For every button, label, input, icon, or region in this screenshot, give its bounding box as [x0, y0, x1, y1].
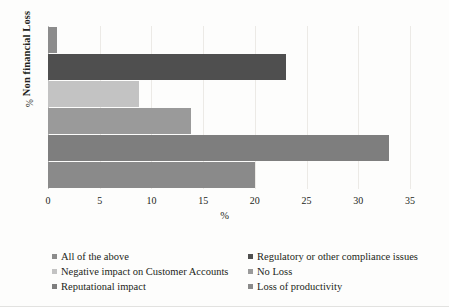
legend-row: All of the aboveRegulatory or other comp… [52, 249, 438, 264]
x-tick-label: 30 [343, 195, 373, 206]
legend-label: All of the above [61, 251, 129, 262]
legend-row: Negative impact on Customer AccountsNo L… [52, 264, 438, 279]
legend-label: Negative impact on Customer Accounts [61, 266, 228, 277]
y-axis-unit-label: % [25, 99, 35, 107]
gridline [410, 26, 411, 189]
x-axis-title: % [0, 210, 449, 221]
bar-no-loss [48, 108, 191, 134]
legend-swatch-icon [248, 254, 253, 259]
x-tick-label: 35 [395, 195, 425, 206]
x-tick-label: 25 [292, 195, 322, 206]
x-tick-label: 15 [188, 195, 218, 206]
bar-all-of-the-above [48, 27, 57, 53]
legend-row: Reputational impactLoss of productivity [52, 279, 438, 294]
legend-swatch-icon [52, 284, 57, 289]
legend-label: Loss of productivity [257, 281, 342, 292]
legend-label: Reputational impact [61, 281, 146, 292]
legend-item[interactable]: All of the above [52, 251, 248, 262]
x-tick-label: 0 [33, 195, 63, 206]
bar-loss-of-productivity [48, 162, 255, 188]
x-tick-label: 5 [85, 195, 115, 206]
x-tick-label: 10 [136, 195, 166, 206]
chart-legend: All of the aboveRegulatory or other comp… [52, 249, 438, 294]
legend-swatch-icon [248, 269, 253, 274]
legend-swatch-icon [52, 269, 57, 274]
legend-label: Regulatory or other compliance issues [257, 251, 418, 262]
legend-item[interactable]: No Loss [248, 266, 292, 277]
x-tick-label: 20 [240, 195, 270, 206]
legend-swatch-icon [248, 284, 253, 289]
legend-label: No Loss [257, 266, 292, 277]
plot-area [48, 26, 410, 189]
legend-item[interactable]: Reputational impact [52, 281, 248, 292]
bar-negative-impact-on-customer-accounts [48, 81, 139, 107]
bar-reputational-impact [48, 135, 389, 161]
chart-page: Non financial Loss % 05101520253035 % Al… [0, 0, 449, 307]
bar-regulatory-or-other-compliance-issues [48, 54, 286, 80]
bar-chart: Non financial Loss % 05101520253035 % [0, 0, 449, 240]
legend-item[interactable]: Regulatory or other compliance issues [248, 251, 418, 262]
legend-swatch-icon [52, 254, 57, 259]
legend-item[interactable]: Loss of productivity [248, 281, 342, 292]
legend-item[interactable]: Negative impact on Customer Accounts [52, 266, 248, 277]
